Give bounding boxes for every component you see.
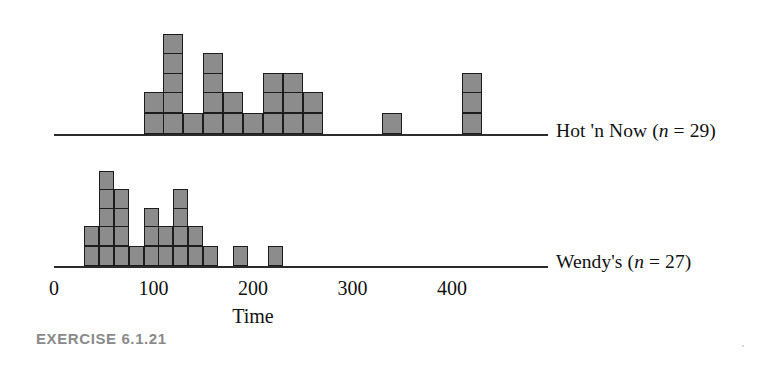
bin-cell xyxy=(203,92,223,113)
axis-line-hot-n-now xyxy=(54,134,548,136)
bin-stack xyxy=(173,191,188,266)
x-tick-label-0: 0 xyxy=(49,277,59,300)
bin-stack xyxy=(382,113,402,134)
figure-container: Hot 'n Now (n = 29) Wendy's (n = 27) 010… xyxy=(0,0,766,366)
bin-stack xyxy=(158,228,173,266)
x-tick-label-100: 100 xyxy=(139,277,169,300)
page-speck xyxy=(742,345,744,347)
bin-cell xyxy=(203,246,218,266)
bin-stack xyxy=(283,74,303,134)
bin-cell xyxy=(188,246,203,266)
bin-cell xyxy=(283,73,303,94)
bin-stack xyxy=(462,74,482,134)
bin-cell xyxy=(99,189,114,209)
series-label-prefix: Wendy's ( xyxy=(556,251,634,272)
series-label-n-symbol: n xyxy=(634,251,644,272)
bin-cell xyxy=(462,73,482,94)
bin-cell xyxy=(158,226,173,246)
bin-cell xyxy=(188,226,203,246)
x-tick-label-200: 200 xyxy=(238,277,268,300)
bin-cell xyxy=(263,73,283,94)
x-tick-label-400: 400 xyxy=(437,277,467,300)
bin-cell xyxy=(144,246,159,266)
bin-cell xyxy=(263,113,283,134)
bin-stack xyxy=(144,209,159,266)
bin-cell xyxy=(268,246,283,266)
panel-wendys xyxy=(54,150,554,268)
bin-cell xyxy=(263,92,283,113)
series-label-suffix: = 29) xyxy=(669,120,716,141)
bin-cell xyxy=(114,189,129,209)
series-label-n-symbol: n xyxy=(659,120,669,141)
bin-cell xyxy=(163,53,183,74)
bin-stack xyxy=(203,55,223,134)
bin-cell xyxy=(223,92,243,113)
bin-cell xyxy=(99,208,114,228)
bin-stack xyxy=(188,228,203,266)
bin-cell xyxy=(129,246,144,266)
bin-cell xyxy=(163,92,183,113)
bin-cell xyxy=(173,226,188,246)
bin-cell xyxy=(462,113,482,134)
exercise-caption: EXERCISE 6.1.21 xyxy=(36,330,167,347)
bin-cell xyxy=(163,113,183,134)
axis-line-wendy-s xyxy=(54,266,548,268)
series-label-suffix: = 27) xyxy=(644,251,691,272)
bin-cell xyxy=(303,92,323,113)
bin-stack xyxy=(163,35,183,134)
bin-cell xyxy=(99,171,114,191)
bin-cell xyxy=(303,113,323,134)
bin-cell xyxy=(144,92,164,113)
bin-cell xyxy=(114,246,129,266)
bin-stack xyxy=(183,113,203,134)
bin-cell xyxy=(233,246,248,266)
bin-cell xyxy=(173,189,188,209)
bin-cell xyxy=(243,113,263,134)
bin-cell xyxy=(203,113,223,134)
bin-stack xyxy=(99,172,114,266)
series-label-wendys: Wendy's (n = 27) xyxy=(556,251,691,273)
bin-cell xyxy=(144,226,159,246)
panel-hot-n-now xyxy=(54,18,554,136)
bin-stack xyxy=(203,246,218,266)
bin-stack xyxy=(243,113,263,134)
bin-stack xyxy=(233,246,248,266)
bin-cell xyxy=(84,226,99,246)
bin-stack xyxy=(144,94,164,134)
bin-cell xyxy=(462,92,482,113)
bin-cell xyxy=(173,208,188,228)
bin-cell xyxy=(99,226,114,246)
bin-cell xyxy=(114,226,129,246)
bin-cell xyxy=(163,73,183,94)
bin-cell xyxy=(158,246,173,266)
bin-cell xyxy=(203,73,223,94)
bin-cell xyxy=(144,113,164,134)
x-axis-title: Time xyxy=(232,305,274,328)
bin-cell xyxy=(183,113,203,134)
x-tick-label-300: 300 xyxy=(338,277,368,300)
bin-cell xyxy=(84,246,99,266)
bin-cell xyxy=(173,246,188,266)
bin-cell xyxy=(163,34,183,55)
bin-stack xyxy=(114,191,129,266)
bin-cell xyxy=(114,208,129,228)
series-label-hot-n-now: Hot 'n Now (n = 29) xyxy=(556,120,716,142)
bin-cell xyxy=(223,113,243,134)
bin-cell xyxy=(99,246,114,266)
bin-cell xyxy=(144,208,159,228)
bin-stack xyxy=(223,94,243,134)
bin-stack xyxy=(129,246,144,266)
bin-stack xyxy=(263,74,283,134)
bin-stack xyxy=(84,228,99,266)
bin-cell xyxy=(382,113,402,134)
bin-stack xyxy=(303,94,323,134)
bin-cell xyxy=(283,92,303,113)
bin-cell xyxy=(283,113,303,134)
series-label-prefix: Hot 'n Now ( xyxy=(556,120,659,141)
bin-stack xyxy=(268,246,283,266)
bin-cell xyxy=(203,53,223,74)
